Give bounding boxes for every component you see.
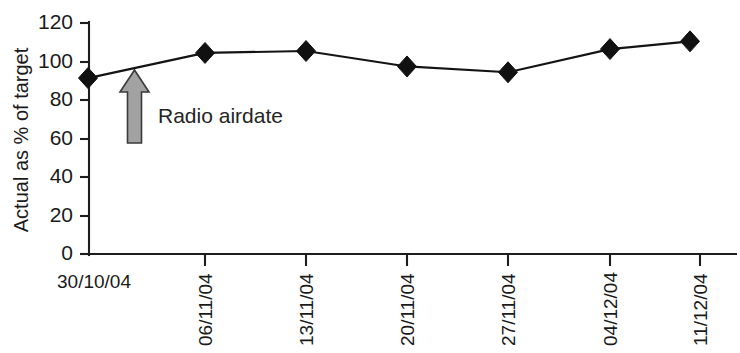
radio-airdate-arrow-icon <box>120 70 149 143</box>
x-tick-label-27-11-04: 27/11/04 <box>498 273 519 346</box>
x-tick-label-20-11-04: 20/11/04 <box>397 273 418 346</box>
y-tick-label-80: 80 <box>50 87 73 110</box>
chart-figure: Actual as % of target 120 100 80 60 40 2… <box>0 0 740 353</box>
x-tick-label-30-10-04: 30/10/04 <box>57 271 131 292</box>
data-point-marker <box>196 42 215 63</box>
y-tick-label-0: 0 <box>61 241 73 264</box>
data-point-marker <box>601 39 620 60</box>
x-tick-label-13-11-04: 13/11/04 <box>296 273 317 346</box>
y-tick-label-100: 100 <box>38 49 73 72</box>
x-axis-ticks <box>205 254 700 266</box>
data-point-marker <box>499 62 518 83</box>
page-footer-artifact <box>0 344 740 353</box>
data-point-marker <box>297 41 316 62</box>
x-tick-label-06-11-04: 06/11/04 <box>195 273 216 346</box>
y-tick-label-40: 40 <box>50 164 73 187</box>
data-point-marker <box>681 31 700 52</box>
y-tick-label-120: 120 <box>38 10 73 33</box>
y-axis-title: Actual as % of target <box>10 47 32 232</box>
data-point-marker <box>398 56 417 77</box>
x-tick-label-04-12-04: 04/12/04 <box>600 272 621 346</box>
y-tick-label-60: 60 <box>50 126 73 149</box>
x-tick-label-11-12-04: 11/12/04 <box>690 273 711 346</box>
data-point-marker <box>79 68 98 89</box>
y-axis-ticks <box>80 23 89 254</box>
series-line-actual-pct-of-target <box>88 41 690 78</box>
y-tick-label-20: 20 <box>50 203 73 226</box>
line-chart: Actual as % of target 120 100 80 60 40 2… <box>0 0 740 353</box>
radio-airdate-label: Radio airdate <box>158 104 283 127</box>
